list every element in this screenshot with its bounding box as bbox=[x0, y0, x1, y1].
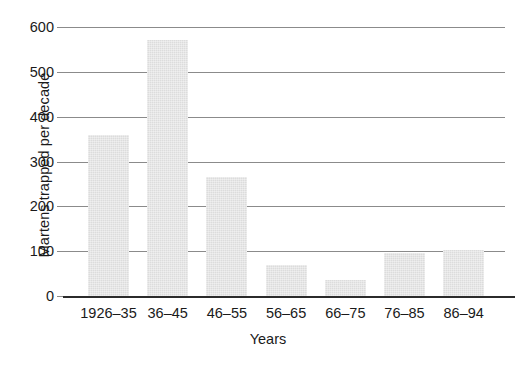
x-axis-tick-label: 86–94 bbox=[444, 305, 484, 321]
y-axis-tickmark bbox=[57, 251, 63, 252]
bar bbox=[147, 40, 188, 296]
y-axis-tick-label: 300 bbox=[30, 154, 54, 170]
bar-chart-figure: Martens trapped per decade 0100200300400… bbox=[0, 0, 528, 367]
y-axis-tickmark bbox=[57, 296, 63, 297]
y-axis-tick-label: 600 bbox=[30, 19, 54, 35]
x-axis-tick-label: 76–85 bbox=[384, 305, 424, 321]
x-axis-tick-label: 66–75 bbox=[325, 305, 365, 321]
y-axis-tickmark bbox=[57, 72, 63, 73]
bar bbox=[266, 265, 307, 296]
x-axis-line bbox=[63, 296, 515, 298]
x-axis-tick-label: 46–55 bbox=[207, 305, 247, 321]
x-axis-tick-label: 36–45 bbox=[148, 305, 188, 321]
bar bbox=[384, 253, 425, 296]
gridline bbox=[63, 251, 505, 252]
y-axis-tickmark bbox=[57, 117, 63, 118]
y-axis-tick-label: 200 bbox=[30, 198, 54, 214]
x-axis-title: Years bbox=[63, 331, 473, 347]
bar bbox=[443, 250, 484, 296]
bar bbox=[206, 177, 247, 296]
y-axis-tickmark bbox=[57, 162, 63, 163]
bar bbox=[88, 135, 129, 296]
x-axis-tick-label: 1926–35 bbox=[80, 305, 136, 321]
y-axis-tick-label: 100 bbox=[30, 243, 54, 259]
y-axis-tick-label: 500 bbox=[30, 64, 54, 80]
plot-area: 0100200300400500600 1926–3536–4546–5556–… bbox=[63, 27, 505, 296]
gridline bbox=[63, 27, 505, 28]
y-axis-tickmark bbox=[57, 27, 63, 28]
gridline bbox=[63, 72, 505, 73]
gridline bbox=[63, 162, 505, 163]
y-axis-tickmark bbox=[57, 206, 63, 207]
x-axis-tick-label: 56–65 bbox=[266, 305, 306, 321]
gridline bbox=[63, 206, 505, 207]
gridline bbox=[63, 117, 505, 118]
bar bbox=[325, 280, 366, 296]
y-axis-tick-label: 400 bbox=[30, 109, 54, 125]
y-axis-tick-label: 0 bbox=[46, 288, 54, 304]
